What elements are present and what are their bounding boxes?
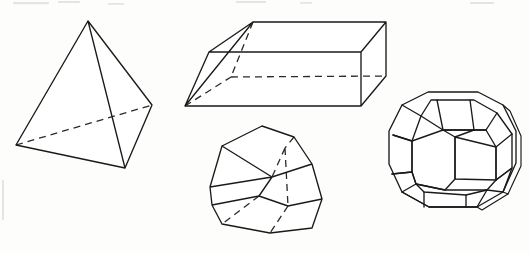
polyhedra-figure <box>0 0 530 253</box>
shape-truncated-cuboctahedron <box>389 92 521 210</box>
